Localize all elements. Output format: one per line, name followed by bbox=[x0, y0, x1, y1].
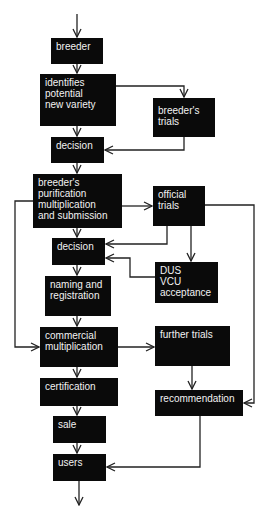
node-certification: certification bbox=[40, 378, 118, 406]
flowchart: breeder identifies potential new variety… bbox=[0, 0, 263, 516]
node-official-trials: official trials bbox=[153, 186, 205, 226]
node-decision-1: decision bbox=[51, 137, 104, 163]
node-naming-registration: naming and registration bbox=[45, 276, 111, 316]
node-sale: sale bbox=[53, 416, 106, 443]
node-recommendation: recommendation bbox=[155, 390, 243, 416]
node-breeders-purification: breeder's purification multiplication an… bbox=[33, 174, 122, 228]
node-breeder: breeder bbox=[51, 38, 103, 64]
node-users: users bbox=[53, 454, 106, 481]
node-decision-2: decision bbox=[52, 238, 105, 265]
node-dus-vcu-acceptance: DUS VCU acceptance bbox=[155, 262, 218, 303]
node-breeders-trials: breeder's trials bbox=[153, 98, 215, 137]
node-identifies-new-variety: identifies potential new variety bbox=[40, 74, 116, 126]
node-further-trials: further trials bbox=[155, 326, 230, 366]
node-commercial-multiplication: commercial multiplication bbox=[40, 327, 118, 367]
